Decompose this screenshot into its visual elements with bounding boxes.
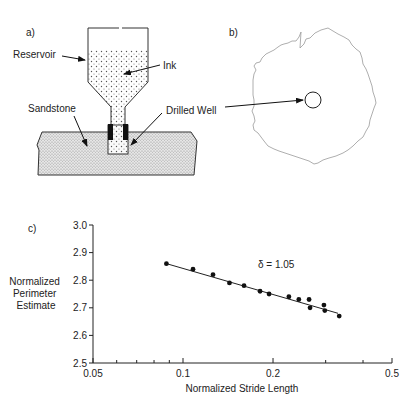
y-tick-label: 2.7 [73, 302, 87, 313]
data-point [242, 283, 247, 288]
drilled-well-arrow-b [225, 100, 303, 107]
data-point [322, 303, 327, 308]
reservoir-arrow [62, 56, 85, 60]
figure: a) Reservoir Ink Sandstone Drilled Well … [0, 0, 418, 409]
data-point [211, 272, 216, 277]
data-point [296, 297, 301, 302]
y-ticks: 2.52.62.72.82.93.0 [73, 220, 93, 369]
data-point [337, 314, 342, 319]
x-tick-label: 0.1 [176, 368, 190, 379]
seal-right [123, 124, 128, 140]
panel-c: c) Normalized Perimeter Estimate 2.52.62… [9, 220, 399, 395]
x-tick-label: 0.5 [385, 368, 399, 379]
data-point [258, 289, 263, 294]
data-point [227, 281, 232, 286]
y-tick-label: 2.6 [73, 330, 87, 341]
x-axis-label: Normalized Stride Length [186, 383, 299, 394]
y-tick-label: 3.0 [73, 220, 87, 231]
well-circle [305, 92, 321, 108]
drilled-well-label: Drilled Well [166, 105, 216, 116]
ink-spread-perimeter [252, 28, 376, 164]
data-point [308, 305, 313, 310]
sandstone-label: Sandstone [28, 103, 76, 114]
panel-b-label: b) [229, 27, 238, 38]
seal-left [108, 124, 113, 140]
data-point [286, 294, 291, 299]
y-tick-label: 2.8 [73, 275, 87, 286]
data-points [164, 261, 342, 318]
y-axis-label: Normalized Perimeter Estimate [9, 276, 62, 311]
x-tick-label: 0.2 [266, 368, 280, 379]
data-point [267, 292, 272, 297]
panel-a: a) Reservoir Ink Sandstone Drilled Well [13, 27, 216, 175]
y-tick-label: 2.9 [73, 247, 87, 258]
data-point [191, 267, 196, 272]
panel-b: b) [225, 27, 376, 164]
data-point [322, 308, 327, 313]
x-ticks: 0.050.10.20.5 [83, 358, 399, 379]
data-point [164, 261, 169, 266]
panel-c-label: c) [28, 223, 36, 234]
ink-label: Ink [163, 60, 177, 71]
ink-fill [88, 50, 148, 125]
y-tick-label: 2.5 [73, 358, 87, 369]
reservoir-label: Reservoir [13, 49, 56, 60]
data-point [307, 297, 312, 302]
x-tick-label: 0.05 [83, 368, 103, 379]
delta-annotation: δ = 1.05 [258, 259, 295, 270]
panel-a-label: a) [26, 27, 35, 38]
